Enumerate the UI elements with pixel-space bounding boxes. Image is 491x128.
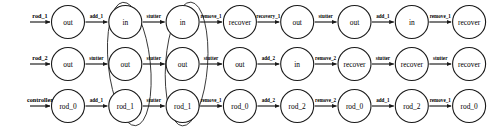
edge-label: stutter — [146, 97, 161, 103]
state-node-label: rod_1 — [174, 102, 192, 111]
edge-label: add_2 — [262, 55, 276, 61]
edge-label: add_1 — [376, 97, 390, 103]
state-transition-diagram: rod_1add_1stutterremove_1recovery_1stutt… — [0, 0, 491, 128]
diagram-canvas: rod_1add_1stutterremove_1recovery_1stutt… — [0, 0, 491, 128]
edge-label: remove_1 — [430, 13, 452, 19]
edge-label: stutter — [318, 13, 333, 19]
state-node-label: out — [63, 60, 73, 69]
edge-label: add_1 — [90, 13, 104, 19]
state-node-label: rod_0 — [59, 102, 77, 111]
edge-label: remove_1 — [200, 13, 222, 19]
edge-label: add_2 — [262, 97, 276, 103]
state-node-label: out — [292, 18, 302, 27]
state-node-label: rod_2 — [289, 102, 307, 111]
state-node-label: rod_0 — [460, 102, 478, 111]
state-node-label: rod_0 — [231, 102, 249, 111]
state-node-label: in — [122, 18, 128, 27]
state-node-label: recover — [458, 18, 481, 27]
state-node-label: out — [63, 18, 73, 27]
edge-label: add_1 — [90, 97, 104, 103]
edge-label: stutter — [376, 55, 391, 61]
start-label-row-rod-1: rod_1 — [32, 12, 47, 19]
edge-label: stutter — [146, 55, 161, 61]
edge-label: stutter — [433, 55, 448, 61]
state-node-label: in — [180, 18, 186, 27]
state-node-label: out — [235, 60, 245, 69]
state-node-label: rod_0 — [346, 102, 364, 111]
state-node-label: out — [121, 60, 131, 69]
state-node-label: in — [409, 18, 415, 27]
state-node-label: recover — [458, 60, 481, 69]
start-label-row-rod-2: rod_2 — [32, 54, 47, 61]
edge-label: remove_2 — [315, 55, 337, 61]
edge-label: stutter — [89, 55, 104, 61]
state-node-label: in — [294, 60, 300, 69]
edge-label: remove_1 — [200, 97, 222, 103]
start-label-row-controller: controller — [27, 96, 53, 103]
state-node-label: recover — [229, 18, 252, 27]
edge-label: remove_1 — [430, 97, 452, 103]
state-node-label: out — [178, 60, 188, 69]
state-node-label: rod_2 — [403, 102, 421, 111]
state-node-label: out — [350, 18, 360, 27]
state-node-label: rod_1 — [117, 102, 135, 111]
edge-label: add_1 — [376, 13, 390, 19]
edge-label: recovery_1 — [256, 13, 280, 19]
state-node-label: recover — [343, 60, 366, 69]
state-node-label: recover — [401, 60, 424, 69]
edge-label: stutter — [204, 55, 219, 61]
edge-label: remove_2 — [315, 97, 337, 103]
edge-label: stutter — [146, 13, 161, 19]
